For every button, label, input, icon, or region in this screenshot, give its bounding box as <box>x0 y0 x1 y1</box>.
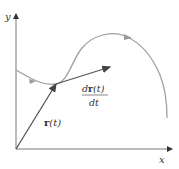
y-axis-label: y <box>4 11 11 22</box>
vector-diagram: y x r(t) dr(t) dt <box>0 0 179 169</box>
derivative-denominator: dt <box>89 97 99 108</box>
derivative-numerator: dr(t) <box>82 83 105 94</box>
x-axis-label: x <box>159 154 165 165</box>
position-vector-label: r(t) <box>44 117 61 128</box>
tangent-vector-arrow <box>56 67 110 84</box>
